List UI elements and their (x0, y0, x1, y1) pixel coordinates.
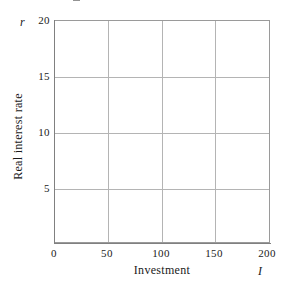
x-axis-line (54, 243, 271, 244)
gridline-vertical-100 (162, 21, 163, 242)
y-axis-title: Real interest rate (12, 57, 25, 217)
x-tick-label-200: 200 (247, 248, 285, 259)
cropped-title-artifact (73, 0, 80, 1)
y-axis-line (54, 20, 55, 244)
x-tick-label-150: 150 (194, 248, 234, 259)
gridline-horizontal-15 (55, 77, 269, 78)
gridline-vertical-150 (215, 21, 216, 242)
x-axis-symbol: I (258, 265, 262, 277)
plot-area (54, 20, 270, 243)
x-axis-title: Investment (54, 264, 270, 277)
x-tick-label-0: 0 (34, 248, 74, 259)
investment-real-interest-rate-chart: r 20 15 10 5 0 50 100 150 200 Investment… (0, 0, 285, 285)
gridline-horizontal-5 (55, 189, 269, 190)
x-tick-label-50: 50 (87, 248, 127, 259)
y-tick-label-20: 20 (6, 15, 50, 26)
x-tick-label-100: 100 (141, 248, 181, 259)
y-tick-label-group: 20 15 10 5 (0, 0, 50, 285)
gridline-vertical-50 (108, 21, 109, 242)
gridline-horizontal-10 (55, 133, 269, 134)
